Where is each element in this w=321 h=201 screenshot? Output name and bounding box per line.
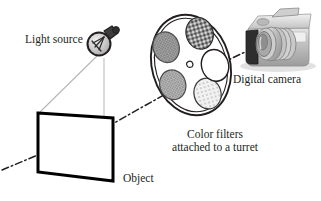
label-object: Object <box>123 172 154 185</box>
figure-canvas: Light source Digital camera Object Color… <box>0 0 321 201</box>
label-digital-camera: Digital camera <box>233 73 301 86</box>
filter-turret <box>139 5 242 125</box>
diagram-svg <box>0 0 321 201</box>
object-plane <box>38 113 113 181</box>
label-color-filters-line1: Color filters <box>160 128 270 141</box>
digital-camera-illustration <box>240 8 316 72</box>
label-color-filters-line2: attached to a turret <box>160 141 270 154</box>
light-bulb-icon <box>88 26 120 56</box>
label-color-filters: Color filters attached to a turret <box>160 128 270 154</box>
label-light-source: Light source <box>25 33 83 46</box>
